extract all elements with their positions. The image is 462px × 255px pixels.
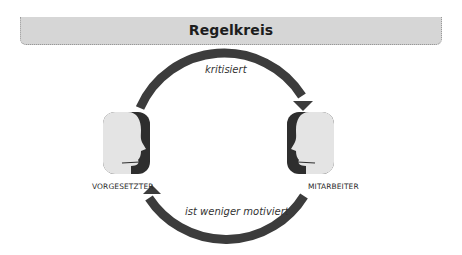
node-label-mitarbeiter: MITARBEITER xyxy=(308,182,359,191)
node-label-vorgesetzter: VORGESETZTER xyxy=(92,182,154,191)
arrowhead-to-mitarbeiter xyxy=(293,101,313,111)
edge-label-ist-weniger-motiviert: ist weniger motiviert xyxy=(185,206,289,217)
head-profile-facing-right-icon xyxy=(103,112,150,174)
arrow-ist-weniger-motiviert xyxy=(149,196,304,239)
arrow-kritisiert xyxy=(140,53,302,108)
edge-label-kritisiert: kritisiert xyxy=(205,64,247,75)
head-profile-facing-left-icon xyxy=(287,112,334,174)
